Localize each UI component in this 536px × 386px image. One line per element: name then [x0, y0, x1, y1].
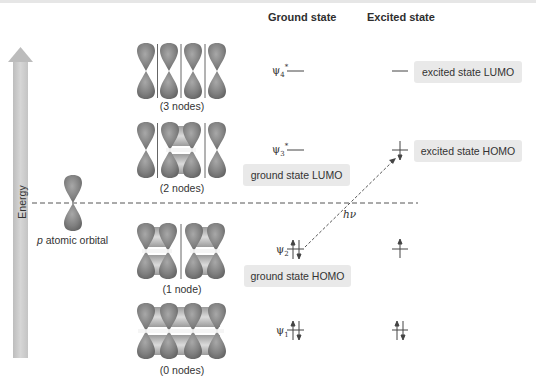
hv-label: hν	[343, 208, 356, 220]
energy-axis-label: Energy	[16, 177, 28, 227]
orbital-psi3-image	[137, 122, 226, 178]
nodes-label-psi3: (2 nodes)	[132, 182, 232, 194]
psi4-label: ψ4*	[272, 63, 288, 79]
diagram-graphics	[0, 0, 536, 386]
nodes-label-psi2: (1 node)	[132, 283, 232, 295]
atomic-orbital-text: atomic orbital	[43, 234, 108, 246]
psi1-label: ψ1	[276, 324, 289, 339]
nodes-label-psi1: (0 nodes)	[132, 364, 232, 376]
excited-state-lumo-callout: excited state LUMO	[414, 61, 522, 83]
orbital-psi1-image	[137, 303, 226, 359]
nodes-label-psi4: (3 nodes)	[132, 100, 232, 112]
ground-state-homo-callout: ground state HOMO	[244, 265, 351, 287]
excited-state-levels	[392, 71, 408, 340]
orbital-psi4-image	[137, 43, 226, 99]
psi2-label: ψ2	[276, 243, 289, 258]
ground-state-levels	[287, 71, 304, 340]
psi3-label: ψ3*	[272, 142, 288, 158]
excited-state-homo-callout: excited state HOMO	[414, 140, 522, 162]
ground-state-lumo-callout: ground state LUMO	[243, 164, 350, 186]
p-atomic-orbital-label: p atomic orbital	[37, 234, 108, 246]
orbital-psi2-image	[137, 223, 225, 279]
